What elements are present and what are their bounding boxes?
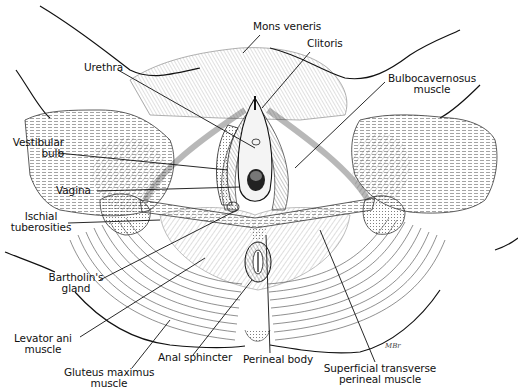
bartholins-gland (227, 202, 239, 212)
label-ischial-tuberosities: Ischial tuberosities (8, 211, 74, 233)
mons-region (130, 48, 347, 120)
label-anal-sphincter: Anal sphincter (158, 352, 232, 363)
label-clitoris: Clitoris (307, 38, 343, 49)
artist-signature: MBr (384, 342, 401, 350)
label-bartholins-gland: Bartholin's gland (46, 272, 106, 294)
label-perineal-body: Perineal body (243, 354, 313, 365)
label-vestibular-line2: bulb (4, 148, 64, 159)
label-superficial-line2: perineal muscle (320, 374, 440, 385)
left-thigh (25, 110, 174, 216)
coccyx-region (245, 330, 270, 341)
label-bulbocavernosus-muscle: Bulbocavernosus muscle (377, 73, 487, 95)
label-superficial-transverse-perineal-muscle: Superficial transverse perineal muscle (320, 363, 440, 385)
label-gluteus-line2: muscle (64, 378, 154, 389)
label-urethra: Urethra (84, 62, 123, 73)
label-bartholin-line2: gland (46, 283, 106, 294)
label-levator-ani-muscle: Levator ani muscle (10, 333, 76, 355)
label-bulbocavernosus-line2: muscle (377, 84, 487, 95)
label-levator-line2: muscle (10, 344, 76, 355)
label-ischial-line2: tuberosities (8, 222, 74, 233)
perineal-body (250, 228, 266, 240)
label-vagina: Vagina (56, 185, 91, 196)
label-gluteus-maximus-muscle: Gluteus maximus muscle (64, 367, 154, 389)
label-mons-veneris: Mons veneris (253, 21, 321, 32)
label-vestibular-bulb: Vestibular bulb (4, 137, 64, 159)
